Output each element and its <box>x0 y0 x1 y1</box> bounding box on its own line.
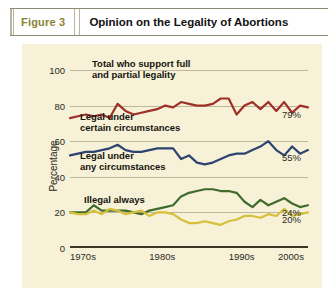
x-tick-label: 2000s <box>278 251 304 262</box>
series-annotation: Illegal always <box>84 194 145 205</box>
plot-area: 020406080100 1970s1980s1990s2000s Total … <box>70 70 308 248</box>
y-tick-label: 60 <box>54 136 65 147</box>
series-annotation: Legal under any circumstances <box>80 150 166 172</box>
y-tick-label: 40 <box>54 171 65 182</box>
figure-header: Figure 3 Opinion on the Legality of Abor… <box>10 8 328 36</box>
chart-panel: Percentage 020406080100 1970s1980s1990s2… <box>22 44 322 288</box>
series-line <box>70 209 308 225</box>
y-tick-label: 80 <box>54 100 65 111</box>
x-tick-label: 1970s <box>70 251 96 262</box>
y-axis-title: Percentage <box>48 140 59 191</box>
series-end-label: 20% <box>282 214 301 225</box>
x-tick-label: 1990s <box>229 251 255 262</box>
series-end-label: 55% <box>282 152 301 163</box>
y-tick-label: 100 <box>49 65 65 76</box>
figure-number-label: Figure 3 <box>21 16 65 28</box>
x-tick-label: 1980s <box>149 251 175 262</box>
series-end-label: 79% <box>282 109 301 120</box>
page-title: Opinion on the Legality of Abortions <box>89 16 288 28</box>
figure-number-cell: Figure 3 <box>10 9 74 35</box>
series-annotation: Legal under certain circumstances <box>80 111 180 133</box>
figure-title-cell: Opinion on the Legality of Abortions <box>80 9 288 35</box>
y-tick-label: 20 <box>54 207 65 218</box>
y-tick-label: 0 <box>60 243 65 254</box>
figure-container: Figure 3 Opinion on the Legality of Abor… <box>0 0 336 306</box>
series-annotation: Total who support full and partial legal… <box>92 58 191 80</box>
